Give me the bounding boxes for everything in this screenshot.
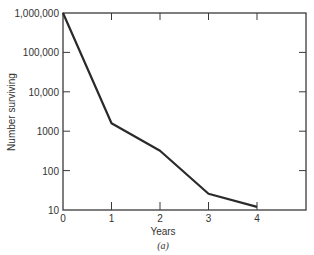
figure-caption: (a) — [157, 240, 169, 252]
y-tick-label: 1000 — [37, 126, 60, 137]
x-tick-label: 3 — [206, 213, 212, 224]
x-tick-label: 4 — [254, 213, 260, 224]
y-tick-label: 10,000 — [28, 87, 59, 98]
y-tick-label: 1,000,000 — [15, 8, 60, 19]
x-tick-label: 0 — [60, 213, 66, 224]
y-tick-label: 100 — [42, 166, 59, 177]
x-axis-ticks: 01234 — [60, 13, 260, 224]
y-tick-label: 10 — [48, 205, 60, 216]
y-axis-title: Number surviving — [6, 73, 17, 151]
survivorship-chart: 10100100010,000100,0001,000,000 01234 Nu… — [0, 0, 314, 255]
x-axis-title: Years — [150, 226, 175, 237]
y-tick-label: 100,000 — [23, 47, 60, 58]
x-tick-label: 1 — [109, 213, 115, 224]
data-series — [63, 13, 257, 207]
survivorship-line — [63, 13, 257, 207]
x-tick-label: 2 — [157, 213, 163, 224]
plot-frame — [63, 13, 306, 210]
y-axis-ticks: 10100100010,000100,0001,000,000 — [15, 8, 307, 216]
